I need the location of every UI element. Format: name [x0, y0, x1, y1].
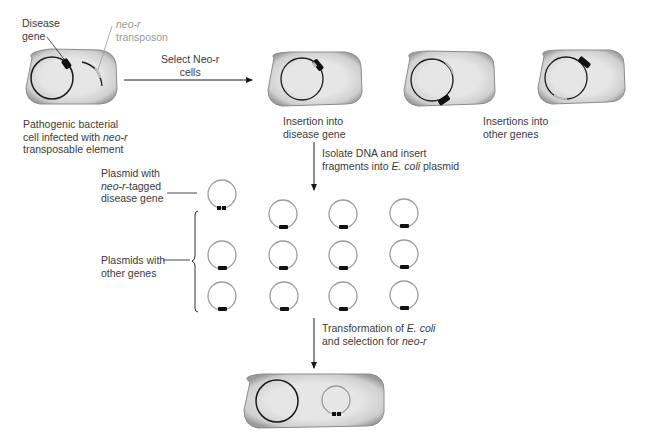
- cell-insertion-disease: [268, 52, 362, 106]
- isolate-label: Isolate DNA and insert fragments into E.…: [322, 147, 459, 172]
- plasmid-grid: [208, 199, 418, 310]
- disease-gene-label: Disease gene: [22, 17, 60, 42]
- insertions-other-label: Insertions into other genes: [483, 115, 548, 140]
- select-label: Select Neo-r cells: [161, 53, 219, 78]
- insertion-disease-label: Insertion into disease gene: [283, 115, 345, 140]
- transposon-label: neo-r transposon: [116, 18, 168, 43]
- diagram-canvas: [0, 0, 651, 443]
- transform-label: Transformation of E. coli and selection …: [322, 322, 435, 347]
- pathogenic-label: Pathogenic bacterial cell infected with …: [23, 118, 127, 156]
- cell-insertion-other-2: [538, 50, 625, 104]
- plasmid-tagged-label: Plasmid with neo-r-tagged disease gene: [101, 167, 163, 205]
- plasmid-tagged: [208, 180, 236, 210]
- cell-insertion-other-1: [404, 51, 495, 106]
- other-plasmids-bracket: [192, 211, 198, 312]
- ecoli-transformed-cell: [244, 374, 384, 428]
- plasmids-other-label: Plasmids with other genes: [101, 254, 165, 279]
- plasmid-inserts: [218, 224, 409, 311]
